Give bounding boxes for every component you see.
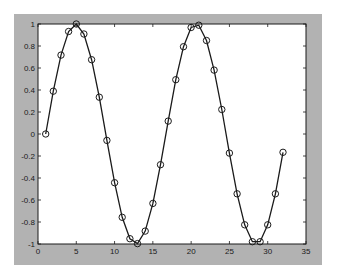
y-tick-label: 0.8: [24, 42, 36, 51]
x-tick-label: 35: [302, 247, 311, 256]
y-tick-label: -0.8: [21, 218, 35, 227]
x-tick-label: 15: [148, 247, 157, 256]
x-tick-label: 5: [74, 247, 79, 256]
x-tick-label: 0: [36, 247, 41, 256]
line-chart: 0510152025303510.80.60.40.20-0.2-0.4-0.6…: [0, 0, 337, 276]
y-tick-label: 0.2: [24, 108, 36, 117]
y-tick-label: -0.4: [21, 174, 35, 183]
figure: 0510152025303510.80.60.40.20-0.2-0.4-0.6…: [0, 0, 337, 276]
y-tick-label: -0.6: [21, 196, 35, 205]
plot-area: [38, 24, 306, 244]
y-tick-label: 0.6: [24, 64, 36, 73]
y-tick-label: 1: [31, 20, 36, 29]
y-tick-label: 0.4: [24, 86, 36, 95]
x-tick-label: 20: [187, 247, 196, 256]
x-tick-label: 10: [110, 247, 119, 256]
x-tick-label: 30: [263, 247, 272, 256]
y-tick-label: -1: [28, 240, 36, 249]
y-tick-label: -0.2: [21, 152, 35, 161]
y-tick-label: 0: [31, 130, 36, 139]
x-tick-label: 25: [225, 247, 234, 256]
